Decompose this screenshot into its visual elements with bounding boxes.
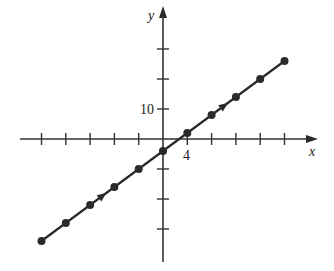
data-point: [232, 93, 240, 101]
data-point: [38, 237, 46, 245]
data-point: [86, 201, 94, 209]
x-axis-label: x: [308, 144, 316, 159]
line-chart: x y 4 10: [0, 0, 334, 271]
y-tick-label-10: 10: [140, 102, 154, 117]
data-point: [62, 219, 70, 227]
data-point: [256, 75, 264, 83]
data-point: [135, 165, 143, 173]
x-tick-label-4: 4: [183, 148, 190, 163]
data-point: [281, 57, 289, 65]
x-axis-arrow-icon: [306, 135, 318, 143]
data-point: [110, 183, 118, 191]
data-point: [159, 147, 167, 155]
y-axis-label: y: [146, 8, 155, 23]
data-point: [183, 129, 191, 137]
y-axis-arrow-icon: [159, 6, 167, 18]
data-point: [208, 111, 216, 119]
